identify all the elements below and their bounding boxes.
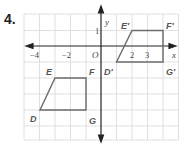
vertex-d-prime: D′: [104, 67, 113, 77]
x-tick-2: 2: [130, 50, 134, 60]
vertex-g-prime: G′: [166, 67, 176, 77]
x-axis-left-arrow-icon: [26, 44, 33, 49]
x-tick-3: 3: [145, 50, 149, 60]
vertex-f: F: [89, 67, 95, 77]
vertex-e: E: [46, 67, 53, 77]
y-axis-up-arrow-icon: [99, 6, 104, 13]
coordinate-plane: −4 −2 2 3 1 O x y D E F G D′ E′ F′ G′: [0, 0, 187, 151]
x-axis-right-arrow-icon: [169, 44, 176, 49]
y-axis-down-arrow-icon: [99, 135, 104, 142]
vertex-g: G: [89, 116, 96, 126]
y-tick-1: 1: [95, 26, 99, 36]
tick-labels: −4 −2 2 3 1 O x y: [30, 17, 176, 60]
vertex-e-prime: E′: [121, 21, 130, 31]
x-tick-neg2: −2: [62, 50, 71, 60]
x-tick-neg4: −4: [30, 50, 40, 60]
origin-label: O: [92, 50, 99, 60]
y-axis-label: y: [104, 17, 109, 27]
x-axis-label: x: [171, 50, 176, 60]
vertex-f-prime: F′: [166, 21, 174, 31]
vertex-d: D: [30, 114, 37, 124]
